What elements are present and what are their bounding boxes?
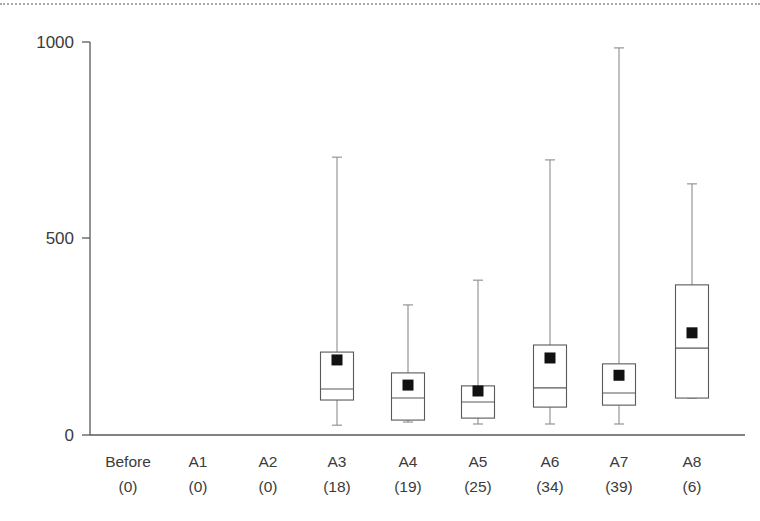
x-axis-category-label: A3 <box>328 453 347 470</box>
mean-marker <box>403 380 414 391</box>
box-plot-a8 <box>676 184 709 398</box>
x-axis-category-label: A1 <box>189 453 208 470</box>
mean-marker <box>473 385 484 396</box>
box-plot-a5 <box>462 280 495 424</box>
box-plot-a6 <box>534 160 567 424</box>
x-axis-category-label: Before <box>105 453 151 470</box>
chart-figure: 1000 500 0 Before(0)A1(0)A2(0)A3(18)A4(1… <box>0 0 760 521</box>
y-axis: 1000 500 0 <box>36 33 90 445</box>
x-axis-count-label: (18) <box>323 478 351 495</box>
x-axis-label-layer: Before(0)A1(0)A2(0)A3(18)A4(19)A5(25)A6(… <box>105 453 701 495</box>
x-axis-category-label: A2 <box>259 453 278 470</box>
box-plot-a4 <box>392 305 425 422</box>
interquartile-box <box>676 285 709 398</box>
box-plot-chart: 1000 500 0 Before(0)A1(0)A2(0)A3(18)A4(1… <box>0 0 760 521</box>
x-axis-category-label: A7 <box>610 453 629 470</box>
box-plot-a7 <box>603 48 636 424</box>
y-tick-label-1000: 1000 <box>36 33 74 52</box>
x-axis-count-label: (34) <box>536 478 564 495</box>
box-plot-a3 <box>321 157 354 425</box>
mean-marker <box>687 327 698 338</box>
mean-marker <box>332 354 343 365</box>
x-axis-count-label: (0) <box>189 478 208 495</box>
x-axis-count-label: (6) <box>683 478 702 495</box>
mean-marker <box>614 370 625 381</box>
x-axis-category-label: A6 <box>541 453 560 470</box>
x-axis-category-label: A5 <box>469 453 488 470</box>
y-tick-label-0: 0 <box>65 426 74 445</box>
box-series-layer <box>321 48 709 425</box>
y-tick-label-500: 500 <box>46 229 74 248</box>
x-axis-count-label: (25) <box>464 478 492 495</box>
mean-marker <box>545 352 556 363</box>
x-axis-count-label: (19) <box>394 478 422 495</box>
x-axis-count-label: (0) <box>119 478 138 495</box>
x-axis-count-label: (39) <box>605 478 633 495</box>
x-axis-count-label: (0) <box>259 478 278 495</box>
x-axis-category-label: A8 <box>683 453 702 470</box>
x-axis-category-label: A4 <box>399 453 418 470</box>
